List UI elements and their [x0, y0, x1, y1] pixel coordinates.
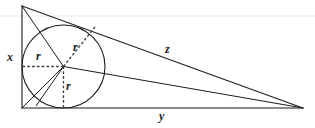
bisector-from-apex [22, 6, 64, 67]
label-radius-lower: r [66, 80, 71, 92]
radius-dashed-hypotenuse [64, 27, 96, 67]
label-horizontal-leg-y: y [159, 110, 164, 122]
geometry-canvas [0, 0, 315, 128]
bisector-from-apex-extension [36, 67, 64, 107]
label-hypotenuse-z: z [165, 43, 170, 55]
label-radius-left: r [36, 50, 41, 62]
bisector-to-bottom-left-vertex [22, 67, 64, 109]
label-radius-upper: r [73, 41, 78, 53]
label-vertical-leg-x: x [7, 51, 13, 63]
geometry-figure: x r r r z y [0, 0, 315, 128]
